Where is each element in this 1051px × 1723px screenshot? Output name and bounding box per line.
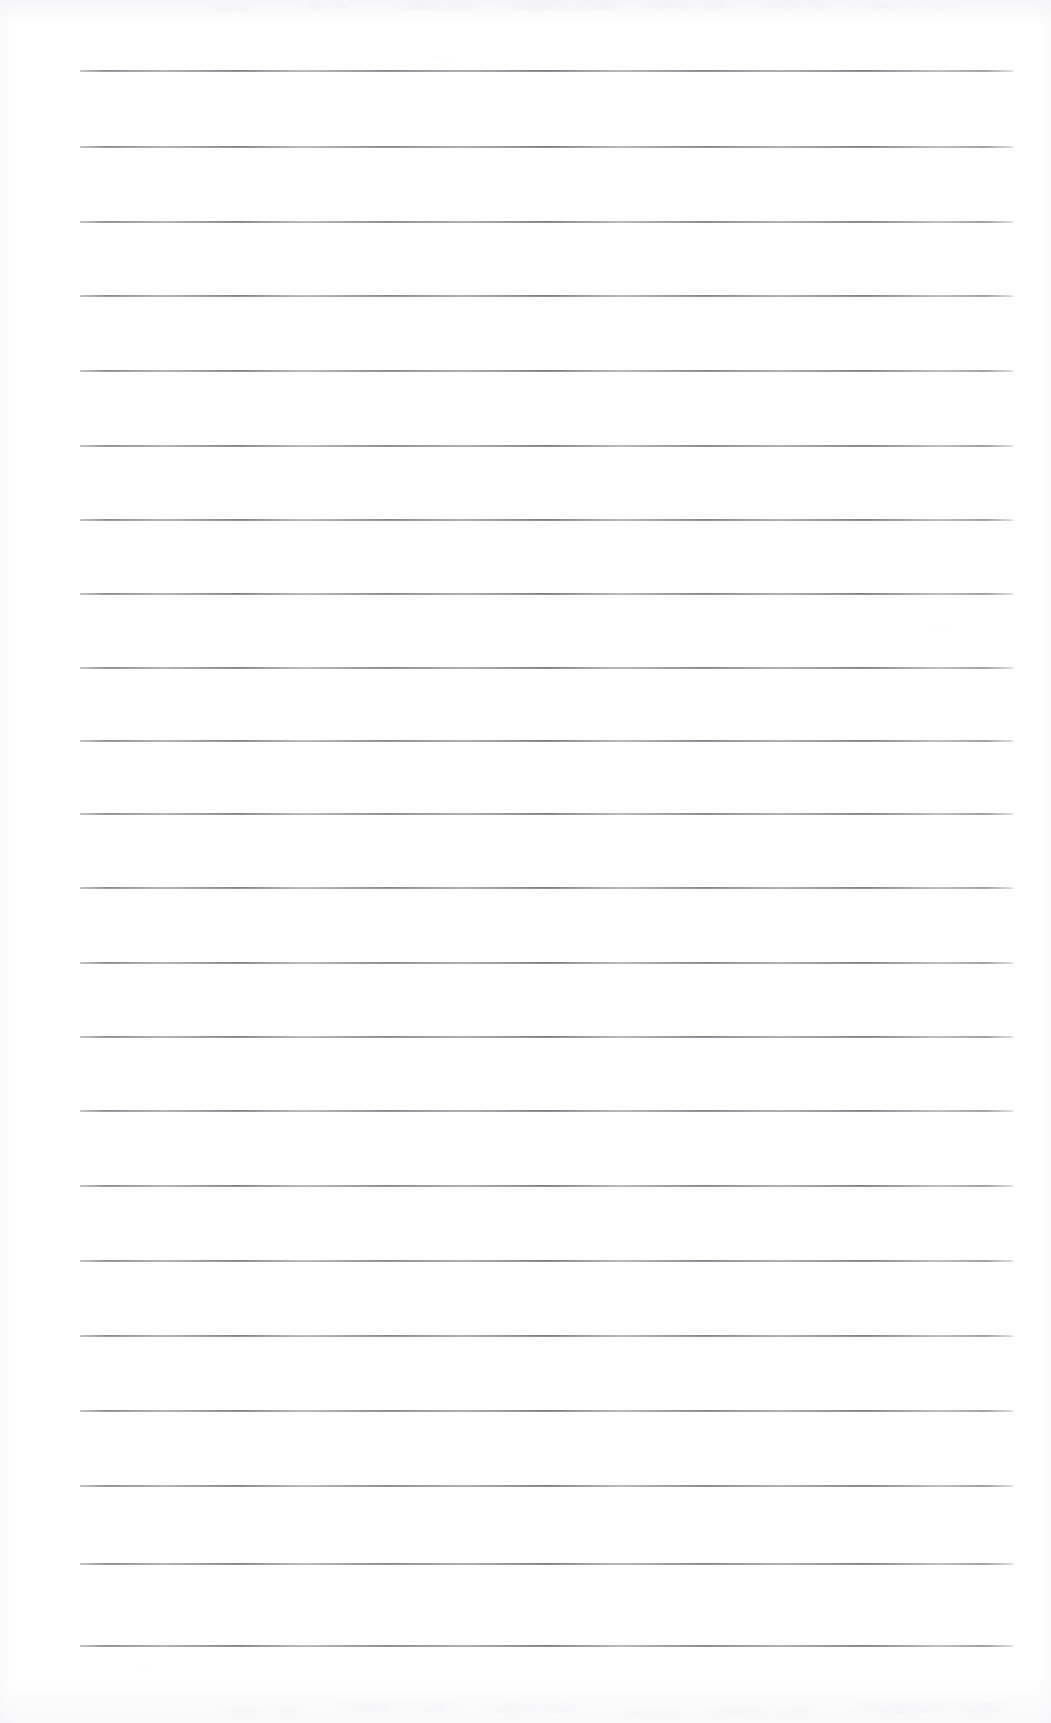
ruled-line: [80, 519, 1013, 521]
ruled-line: [80, 1260, 1013, 1262]
ruled-line: [80, 667, 1013, 669]
ruled-line: [80, 1645, 1013, 1647]
ruled-line: [80, 1335, 1013, 1337]
ruled-line: [80, 1036, 1013, 1038]
ruled-line: [80, 1110, 1013, 1112]
ruled-line: [80, 295, 1013, 297]
ruled-line: [80, 370, 1013, 372]
ruled-line: [80, 1563, 1013, 1565]
ruled-line: [80, 1485, 1013, 1487]
ruled-line: [80, 146, 1013, 148]
ruled-line: [80, 740, 1013, 742]
ruled-line: [80, 593, 1013, 595]
scanned-page: [0, 0, 1051, 1723]
ruled-line: [80, 1185, 1013, 1187]
ruled-line: [80, 887, 1013, 889]
ruled-line: [80, 70, 1013, 72]
ruled-lines-group: [0, 0, 1051, 1723]
ruled-line: [80, 1410, 1013, 1412]
ruled-line: [80, 962, 1013, 964]
ruled-line: [80, 221, 1013, 223]
ruled-line: [80, 445, 1013, 447]
ruled-line: [80, 813, 1013, 815]
